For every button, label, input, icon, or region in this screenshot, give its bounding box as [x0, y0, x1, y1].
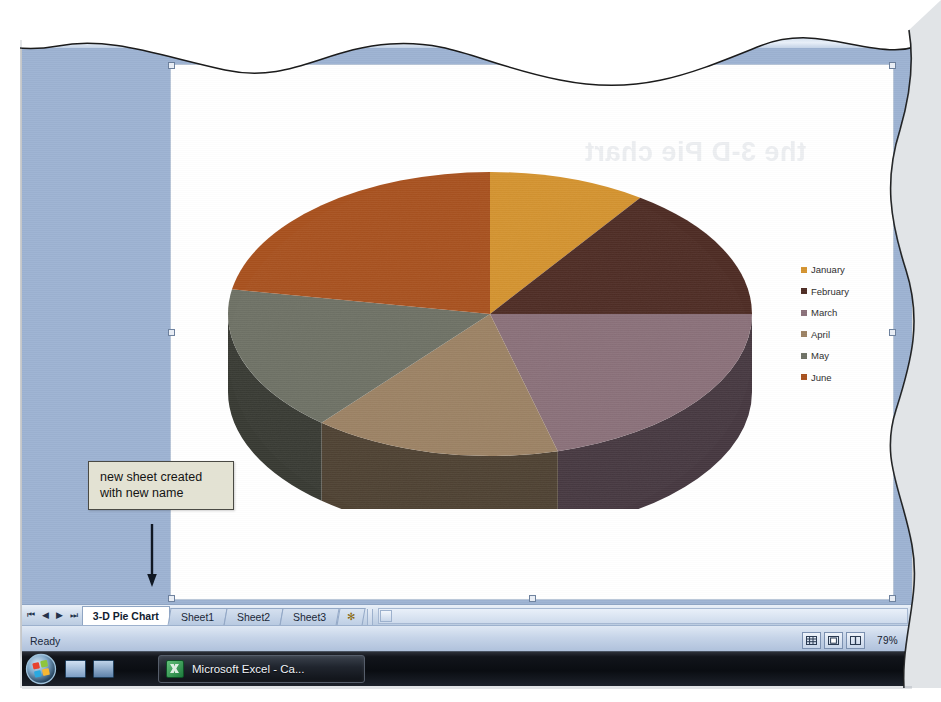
page-break-preview-icon	[850, 636, 861, 645]
status-mode-label: Ready	[22, 635, 60, 647]
pie-slice-february[interactable]	[490, 198, 752, 314]
next-sheet-icon[interactable]: ▶	[56, 611, 63, 620]
legend-item[interactable]: April	[801, 330, 849, 340]
scanned-page: the 3-D Pie chart	[0, 0, 941, 702]
legend-swatch-icon	[801, 374, 807, 380]
chart-sheet-backdrop: the 3-D Pie chart	[22, 48, 912, 604]
pie-3d-sides	[228, 314, 752, 509]
sheet-tab-bar: ⏮ ◀ ▶ ⏭ 3-D Pie ChartSheet1Sheet2Sheet3 …	[22, 604, 912, 626]
legend-swatch-icon	[801, 310, 807, 316]
annotation-callout: new sheet created with new name	[88, 461, 234, 510]
pie-slice-april[interactable]	[322, 314, 558, 456]
page-showthrough-ghost-text: the 3-D Pie chart	[376, 137, 806, 168]
pie-paper-grain	[228, 172, 752, 509]
legend-item-label: May	[811, 351, 829, 361]
pie-slice-june[interactable]	[232, 172, 490, 314]
legend-item-label: June	[811, 373, 832, 383]
resize-handle-top-left[interactable]	[168, 62, 175, 69]
sheet-tab-label: 3-D Pie Chart	[93, 607, 159, 626]
legend-item-label: January	[811, 265, 845, 275]
start-button[interactable]	[24, 652, 58, 686]
legend-item[interactable]: January	[801, 265, 849, 275]
resize-handle-top-right[interactable]	[889, 62, 896, 69]
status-bar-right-group: 79%	[802, 632, 912, 649]
last-sheet-icon[interactable]: ⏭	[70, 611, 78, 620]
horizontal-scrollbar[interactable]	[378, 608, 908, 624]
legend-item-label: March	[811, 308, 837, 318]
legend-swatch-icon	[801, 267, 807, 273]
sheet-tab-sheet3[interactable]: Sheet3	[280, 608, 340, 626]
legend-item[interactable]: May	[801, 351, 849, 361]
formula-bar-float-host: ▼ fx	[22, 36, 912, 37]
page-layout-view-button[interactable]	[824, 632, 843, 649]
taskbar-window-button-excel[interactable]: Microsoft Excel - Ca...	[158, 655, 365, 683]
resize-handle-bottom-middle[interactable]	[529, 595, 536, 602]
sheet-tab-label: Sheet2	[237, 609, 270, 626]
status-bar: Ready	[22, 625, 912, 654]
legend-swatch-icon	[801, 331, 807, 337]
annotation-callout-text: new sheet created with new name	[100, 470, 202, 500]
legend-item-label: April	[811, 330, 830, 340]
sheet-tab-label: Sheet3	[293, 609, 326, 626]
legend-item-label: February	[811, 287, 849, 297]
resize-handle-left-middle[interactable]	[168, 329, 175, 336]
legend-swatch-icon	[801, 288, 807, 294]
taskbar-window-button-label: Microsoft Excel - Ca...	[192, 663, 304, 675]
pie-chart-plot-area[interactable]	[205, 109, 775, 509]
pie-slice-side	[322, 423, 558, 509]
annotation-arrow-icon	[146, 524, 158, 588]
chart-area[interactable]: the 3-D Pie chart	[170, 64, 894, 600]
legend-item[interactable]: February	[801, 287, 849, 297]
pie-slice-march[interactable]	[490, 314, 752, 451]
horizontal-scrollbar-thumb[interactable]	[380, 610, 392, 622]
sheet-tabs-host: 3-D Pie ChartSheet1Sheet2Sheet3	[82, 606, 338, 626]
pie-chart-svg	[205, 109, 775, 509]
page-layout-view-icon	[828, 636, 839, 645]
resize-handle-right-middle[interactable]	[889, 329, 896, 336]
resize-handle-bottom-right[interactable]	[889, 595, 896, 602]
legend-item[interactable]: June	[801, 373, 849, 383]
zoom-level-label[interactable]: 79%	[877, 635, 898, 646]
tab-split-handle[interactable]	[367, 609, 373, 626]
normal-view-icon	[806, 636, 817, 645]
normal-view-button[interactable]	[802, 632, 821, 649]
sheet-navigation-buttons: ⏮ ◀ ▶ ⏭	[22, 605, 82, 626]
pie-slice-side	[228, 314, 322, 501]
sheet-tab-label: Sheet1	[181, 609, 214, 626]
show-desktop-icon[interactable]	[65, 660, 86, 678]
first-sheet-icon[interactable]: ⏮	[27, 611, 35, 620]
page-break-preview-button[interactable]	[846, 632, 865, 649]
insert-function-icon[interactable]: fx	[250, 20, 259, 36]
pie-slice-side	[558, 314, 752, 509]
pie-top-surface	[228, 172, 752, 456]
windows-taskbar: Microsoft Excel - Ca...	[22, 651, 918, 686]
chevron-down-icon[interactable]: ▼	[179, 22, 191, 34]
excel-app-icon	[166, 660, 184, 678]
sheet-tab-sheet2[interactable]: Sheet2	[223, 608, 283, 626]
legend-item[interactable]: March	[801, 308, 849, 318]
pie-slice-may[interactable]	[228, 289, 490, 422]
media-player-icon[interactable]	[93, 660, 114, 678]
sheet-tab-sheet1[interactable]: Sheet1	[167, 608, 227, 626]
chart-legend[interactable]: JanuaryFebruaryMarchAprilMayJune	[801, 265, 849, 394]
previous-sheet-icon[interactable]: ◀	[42, 611, 49, 620]
resize-handle-top-middle[interactable]	[529, 62, 536, 69]
windows-orb-icon	[24, 652, 58, 686]
insert-worksheet-tab[interactable]: ✻	[336, 608, 366, 626]
legend-swatch-icon	[801, 353, 807, 359]
resize-handle-bottom-left[interactable]	[168, 595, 175, 602]
pie-slice-january[interactable]	[490, 172, 640, 314]
sheet-tab-3-d-pie-chart[interactable]: 3-D Pie Chart	[82, 606, 170, 626]
insert-worksheet-icon: ✻	[347, 609, 355, 624]
